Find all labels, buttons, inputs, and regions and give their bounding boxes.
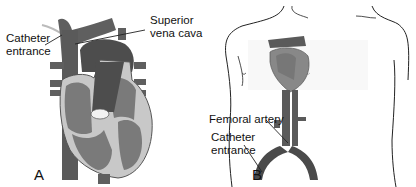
label-line-1: Catheter: [6, 32, 51, 45]
panel-letter-b: B: [252, 166, 262, 183]
label-line-1: Superior: [150, 14, 202, 27]
label-line-2: entrance: [6, 45, 51, 58]
panel-b-torso-diagram: Femoral artery Catheter entrance B: [208, 0, 416, 187]
label-line-1: Catheter: [211, 131, 256, 144]
label-catheter-entrance-b: Catheter entrance: [211, 131, 256, 157]
label-catheter-entrance-a: Catheter entrance: [6, 32, 51, 58]
label-line-2: vena cava: [150, 27, 202, 40]
label-femoral-artery: Femoral artery: [209, 113, 284, 126]
torso-illustration: [208, 0, 416, 187]
label-superior-vena-cava: Superior vena cava: [150, 14, 202, 40]
panel-letter-a: A: [34, 166, 44, 183]
panel-a-heart-diagram: Catheter entrance Superior vena cava A: [0, 0, 208, 187]
label-line-2: entrance: [211, 144, 256, 157]
